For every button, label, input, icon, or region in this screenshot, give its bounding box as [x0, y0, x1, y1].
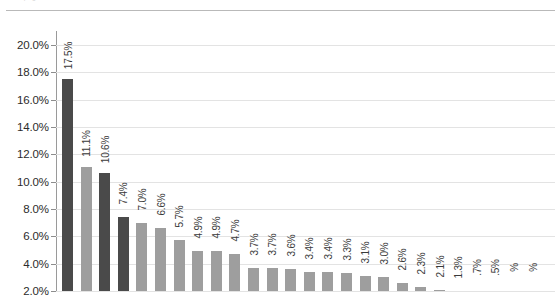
bar-value-label: 1.3% [453, 257, 464, 279]
bar-body [285, 269, 296, 291]
bar-body [136, 223, 147, 291]
bar-value-label: 4.9% [211, 217, 222, 239]
bar[interactable]: 1.3% [453, 31, 464, 291]
tick-mark [51, 72, 56, 73]
bar[interactable]: 7.0% [136, 31, 147, 291]
bar-body [81, 167, 92, 291]
plot-area: 17.5%11.1%10.6%7.4%7.0%6.6%5.7%4.9%4.9%4… [56, 31, 555, 291]
y-axis-tick-label: 14.0% [17, 121, 49, 133]
bar-body [415, 287, 426, 291]
bar-value-label: .5% [490, 259, 501, 276]
bar-body [192, 251, 203, 291]
bar[interactable]: % [508, 31, 519, 291]
bar-body [341, 273, 352, 291]
bar[interactable]: .7% [471, 31, 482, 291]
bar-body [118, 217, 129, 291]
y-axis-tick-label: 8.0% [23, 203, 49, 215]
bar-body [360, 276, 371, 291]
bar[interactable]: 4.9% [211, 31, 222, 291]
bar-value-label: 2.6% [397, 248, 408, 270]
bar[interactable]: 3.7% [267, 31, 278, 291]
y-axis-tick-label: 20.0% [17, 39, 49, 51]
bar-body [174, 240, 185, 291]
bar-body [304, 272, 315, 291]
bar[interactable]: 3.4% [304, 31, 315, 291]
bar[interactable]: 4.9% [192, 31, 203, 291]
bar[interactable]: .5% [490, 31, 501, 291]
bar[interactable]: 3.0% [378, 31, 389, 291]
bar[interactable]: 4.7% [229, 31, 240, 291]
bar-body [322, 272, 333, 291]
bar-value-label: 3.6% [285, 235, 296, 257]
bar[interactable]: 11.1% [81, 31, 92, 291]
y-axis-tick-label: 2.0% [23, 285, 49, 297]
bar-value-label: 4.9% [192, 217, 203, 239]
bar[interactable]: 3.3% [341, 31, 352, 291]
gridline [56, 291, 555, 292]
bar-body [155, 228, 166, 291]
bar-value-label: 3.3% [341, 239, 352, 261]
bar-body [434, 290, 445, 291]
y-axis-tick-label: 12.0% [17, 148, 49, 160]
bar[interactable]: 17.5% [62, 31, 73, 291]
bar[interactable]: % [527, 31, 538, 291]
bar-value-label: 3.4% [322, 237, 333, 259]
bar-body [378, 277, 389, 291]
bar-value-label: 4.7% [229, 220, 240, 242]
bar-body [99, 173, 110, 291]
bar-value-label: 17.5% [62, 42, 73, 69]
bar-value-label: 7.0% [136, 188, 147, 210]
bar[interactable]: 3.4% [322, 31, 333, 291]
tick-mark [51, 236, 56, 237]
tick-mark [51, 127, 56, 128]
bar[interactable]: 2.1% [434, 31, 445, 291]
page-scan-artifact: cut-off page header text [0, 0, 559, 14]
y-axis-tick-label: 4.0% [23, 258, 49, 270]
tick-mark [51, 100, 56, 101]
bar-value-label: 2.1% [434, 255, 445, 277]
y-axis-tick-label: 6.0% [23, 230, 49, 242]
bar-value-label: 10.6% [99, 136, 110, 163]
bar-value-label: 3.4% [304, 237, 315, 259]
bar-value-label: 11.1% [81, 130, 92, 157]
bar-body [229, 254, 240, 291]
bar[interactable]: 5.7% [174, 31, 185, 291]
bar-body [248, 268, 259, 291]
bar-value-label: .7% [471, 259, 482, 276]
bar-value-label: 3.1% [360, 241, 371, 263]
bar-value-label: % [527, 263, 538, 272]
y-axis-tick-label: 10.0% [17, 176, 49, 188]
bar[interactable]: 3.7% [248, 31, 259, 291]
tick-mark [51, 264, 56, 265]
tick-mark [51, 154, 56, 155]
bar-value-label: 7.4% [118, 183, 129, 205]
header-rule [6, 10, 555, 11]
bar-value-label: 6.6% [155, 194, 166, 216]
tick-mark [51, 209, 56, 210]
bar-value-label: 2.3% [415, 252, 426, 274]
bar-body [211, 251, 222, 291]
bar[interactable]: 6.6% [155, 31, 166, 291]
bar[interactable]: 7.4% [118, 31, 129, 291]
bar-body [397, 283, 408, 291]
bar-value-label: % [508, 263, 519, 272]
bar[interactable]: 2.3% [415, 31, 426, 291]
bar-chart: 17.5%11.1%10.6%7.4%7.0%6.6%5.7%4.9%4.9%4… [0, 14, 559, 291]
tick-mark [51, 182, 56, 183]
bar-value-label: 3.7% [248, 233, 259, 255]
bar-value-label: 5.7% [174, 206, 185, 228]
bar[interactable]: 10.6% [99, 31, 110, 291]
bar-body [267, 268, 278, 291]
bar-body [62, 79, 73, 291]
bar[interactable]: 2.6% [397, 31, 408, 291]
tick-mark [51, 291, 56, 292]
y-axis-tick-label: 18.0% [17, 66, 49, 78]
bar[interactable]: 3.6% [285, 31, 296, 291]
bar[interactable]: 3.1% [360, 31, 371, 291]
bar-value-label: 3.0% [378, 243, 389, 265]
bar-value-label: 3.7% [267, 233, 278, 255]
tick-mark [51, 45, 56, 46]
y-axis-tick-label: 16.0% [17, 94, 49, 106]
